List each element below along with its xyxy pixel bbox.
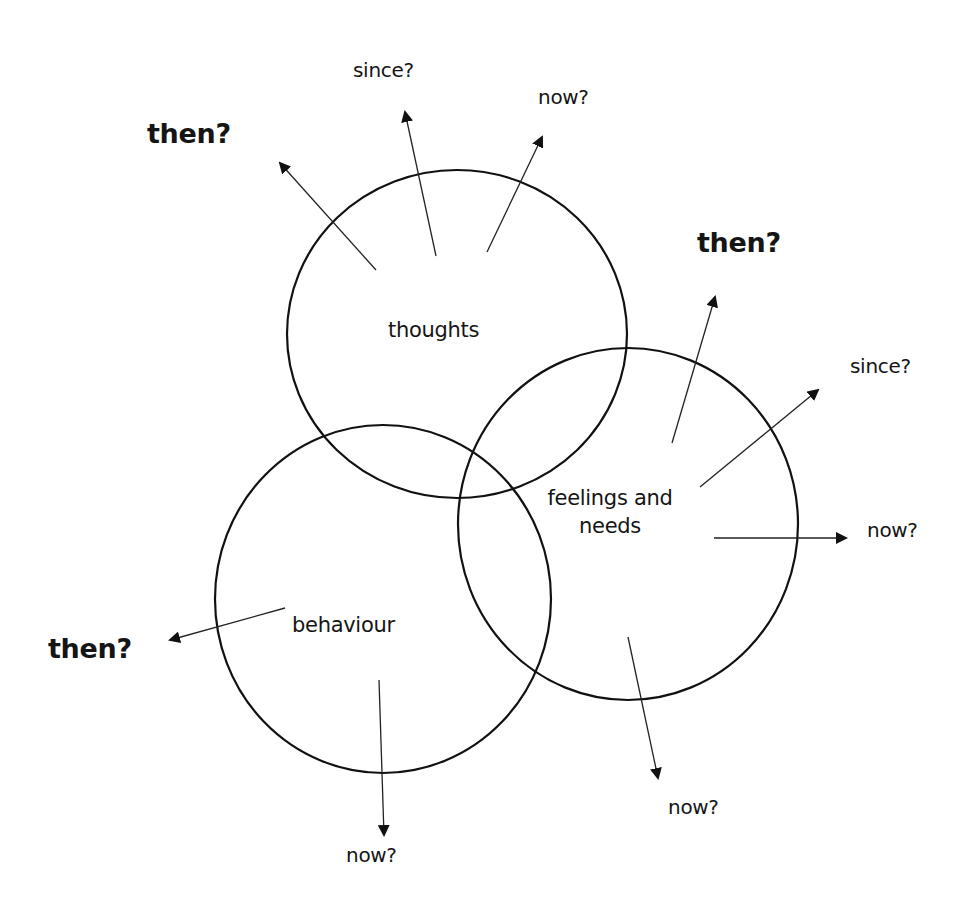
behaviour-label: behaviour	[292, 611, 395, 639]
behaviour-now-arrow-icon	[379, 680, 384, 835]
feelings-label-line1: feelings and	[545, 484, 675, 512]
thoughts-now-arrow-icon	[487, 137, 542, 252]
feelings-then-label: then?	[697, 227, 781, 258]
behaviour-circle	[215, 425, 551, 773]
feelings-label-line2: needs	[545, 512, 675, 540]
thoughts-then-label: then?	[147, 118, 231, 149]
behaviour-now-label: now?	[346, 843, 397, 867]
feelings-now-down-label: now?	[668, 795, 719, 819]
thoughts-since-arrow-icon	[405, 112, 436, 256]
feelings-now-right-label: now?	[867, 518, 918, 542]
behaviour-then-label: then?	[48, 633, 132, 664]
thoughts-then-arrow-icon	[280, 163, 376, 270]
thoughts-label: thoughts	[388, 316, 479, 344]
feelings-since-label: since?	[850, 354, 911, 378]
feelings-label: feelings and needs	[545, 484, 675, 540]
thoughts-since-label: since?	[353, 58, 414, 82]
thoughts-now-label: now?	[538, 85, 589, 109]
behaviour-then-arrow-icon	[170, 608, 285, 640]
feelings-now-down-arrow-icon	[628, 637, 658, 778]
feelings-since-arrow-icon	[700, 390, 818, 487]
